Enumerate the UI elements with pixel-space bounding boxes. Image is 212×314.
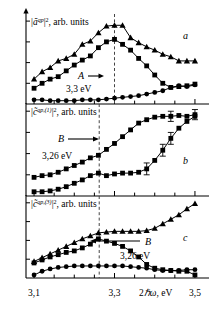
panel-b-annotation-energy: 3,26 eV — [42, 151, 72, 161]
panel-a-data-point-square — [32, 86, 37, 91]
panel-a-data-point-square — [88, 54, 93, 59]
panel-b-data-point-square — [96, 153, 101, 158]
panel-b-data-point-square — [128, 127, 133, 132]
panel-c-data-point-circle — [152, 267, 157, 272]
panel-b-data-point-square — [160, 114, 165, 119]
panel-a-data-point-circle — [80, 97, 85, 102]
panel-a-data-point-square — [128, 48, 133, 53]
panel-c-data-point-circle — [128, 264, 133, 269]
panel-b-data-point-square — [136, 170, 141, 175]
panel-b-data-point-square — [160, 148, 165, 153]
panel-c-data-point-square — [88, 242, 93, 247]
panel-a-data-point-circle — [136, 93, 141, 98]
panel-b-data-point-square — [185, 114, 190, 119]
panel-a-y-axis-arrow — [23, 8, 28, 14]
figure-container: |ãqp|2, arb. unitsa|c̃qp,(1)|2, arb. un… — [0, 0, 212, 314]
panel-b-data-point-square — [80, 178, 85, 183]
panel-b-data-point-square — [48, 189, 53, 194]
panel-c-data-point-circle — [48, 267, 53, 272]
panel-a-data-point-circle — [144, 92, 149, 97]
panel-a-data-point-circle — [64, 98, 69, 103]
panel-a-data-point-circle — [120, 95, 125, 100]
panel-b-data-point-square — [193, 114, 198, 119]
panel-c-ylabel: |c̃qp,(3)|2, arb. units — [31, 199, 97, 209]
panel-c-data-point-square — [64, 250, 69, 255]
panel-c-data-point-circle — [88, 264, 93, 269]
x-tick-label: 3,3 — [109, 288, 121, 298]
panel-a-data-point-square — [136, 56, 141, 61]
panel-b-data-point-square — [56, 170, 61, 175]
panel-b-data-point-square — [56, 187, 61, 192]
panel-a-data-point-circle — [72, 98, 77, 103]
panel-b-annotation-label: B — [58, 133, 64, 144]
panel-b-data-point-square — [168, 114, 173, 119]
panel-c-data-point-circle — [104, 264, 109, 269]
panel-b-data-point-square — [104, 147, 109, 152]
panel-a-annotation-energy: 3,3 eV — [66, 84, 91, 94]
panel-b-data-point-square — [64, 184, 69, 189]
panel-a-letter: a — [183, 30, 188, 41]
panel-b-data-point-square — [168, 136, 173, 141]
panel-b-data-point-square — [72, 181, 77, 186]
panel-c-annotation-energy: 3,26 eV — [120, 251, 150, 261]
panel-c-data-point-circle — [80, 264, 85, 269]
panel-a-data-point-square — [112, 37, 117, 42]
panel-a-data-point-circle — [40, 97, 45, 102]
panel-a-data-point-square — [152, 73, 157, 78]
panel-a-data-point-triangle — [144, 44, 150, 50]
panel-b-data-point-square — [112, 172, 117, 177]
panel-c-data-point-triangle — [192, 200, 198, 206]
panel-a-data-point-circle — [88, 97, 93, 102]
panel-c-data-point-square — [56, 252, 61, 257]
panel-c-data-point-circle — [40, 269, 45, 274]
panel-a-data-point-circle — [168, 85, 173, 90]
panel-a-data-point-square — [40, 81, 45, 86]
panel-b-data-point-square — [64, 166, 69, 171]
panel-c-data-point-square — [120, 244, 125, 249]
panel-c-data-point-square — [32, 261, 37, 266]
panel-c-annotation-label: B — [145, 236, 151, 247]
panel-c-data-point-circle — [176, 268, 181, 273]
panel-c-data-point-square — [40, 258, 45, 263]
panel-a-data-point-square — [56, 74, 61, 79]
three-panel-spectra-figure: |ãqp|2, arb. unitsa|c̃qp,(1)|2, arb. un… — [0, 0, 212, 314]
panel-c-data-point-circle — [168, 268, 173, 273]
panel-c-data-point-square — [193, 273, 198, 278]
panel-a-data-point-triangle — [39, 69, 45, 75]
panel-a-data-point-circle — [152, 90, 157, 95]
panel-c-data-point-circle — [120, 264, 125, 269]
panel-b-data-point-square — [128, 171, 133, 176]
panel-a-data-point-square — [104, 39, 109, 44]
panel-c-data-point-square — [48, 255, 53, 260]
panel-b-data-point-square — [152, 115, 157, 120]
panel-b-data-point-square — [80, 160, 85, 165]
panel-b-data-point-square — [32, 189, 37, 194]
panel-b-data-point-square — [144, 117, 149, 122]
panel-b-data-point-square — [104, 173, 109, 178]
panel-a-data-point-triangle — [127, 35, 133, 41]
panel-a-data-point-circle — [185, 84, 190, 89]
panel-b-data-point-square — [88, 155, 93, 160]
panel-c-data-point-triangle — [71, 240, 77, 246]
panel-a-data-point-square — [72, 63, 77, 68]
panel-b-data-point-square — [176, 113, 181, 118]
panel-b-data-point-square — [136, 121, 141, 126]
panel-a-data-point-square — [144, 63, 149, 68]
panel-c-data-point-circle — [136, 265, 141, 270]
panel-c-data-point-triangle — [184, 206, 190, 212]
panel-c-data-point-circle — [193, 267, 198, 272]
panel-a-data-point-circle — [96, 97, 101, 102]
panel-b-data-point-square — [32, 175, 37, 180]
panel-a-annotation-label: A — [77, 70, 85, 81]
panel-b-data-point-square — [48, 172, 53, 177]
panel-a-data-point-triangle — [152, 47, 158, 53]
panel-b-letter: b — [183, 155, 188, 166]
panel-c-data-point-circle — [96, 264, 101, 269]
x-tick-label: 3,5 — [189, 288, 201, 298]
panel-a-data-point-triangle — [160, 51, 166, 57]
panel-a-data-point-square — [96, 45, 101, 50]
panel-a-data-point-circle — [193, 83, 198, 88]
panel-c-data-point-square — [80, 246, 85, 251]
panel-b-ylabel: |c̃qp,(1)|2, arb. units — [31, 107, 97, 117]
panel-b-data-point-square — [176, 126, 181, 131]
